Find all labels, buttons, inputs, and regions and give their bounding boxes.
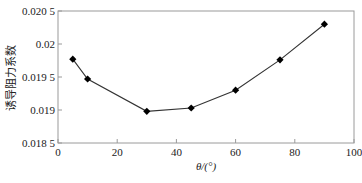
y-tick-label: 0.020 5 — [22, 5, 56, 17]
series-line — [73, 24, 325, 111]
x-tick-label: 100 — [346, 146, 362, 158]
y-axis-ticks: 0.018 50.0190.019 50.020.020 5 — [22, 5, 62, 149]
x-axis-label: θ/(°) — [196, 160, 217, 173]
x-axis-ticks: 020406080100 — [55, 139, 362, 158]
diamond-marker — [232, 87, 239, 94]
data-series — [69, 21, 328, 115]
y-axis-label: 诱导阻力系数 — [5, 45, 18, 111]
x-tick-label: 20 — [112, 146, 124, 158]
plot-border — [58, 11, 354, 143]
x-tick-label: 0 — [55, 146, 61, 158]
x-tick-label: 80 — [289, 146, 301, 158]
line-chart: 0.018 50.0190.019 50.020.020 5 020406080… — [0, 0, 362, 183]
diamond-marker — [188, 104, 195, 111]
x-tick-label: 40 — [171, 146, 183, 158]
plot-frame — [58, 11, 354, 143]
x-tick-label: 60 — [230, 146, 242, 158]
y-tick-label: 0.018 5 — [22, 137, 56, 149]
y-tick-label: 0.02 — [36, 38, 55, 50]
y-tick-label: 0.019 5 — [22, 71, 56, 83]
diamond-marker — [143, 108, 150, 115]
y-tick-label: 0.019 — [30, 104, 55, 116]
